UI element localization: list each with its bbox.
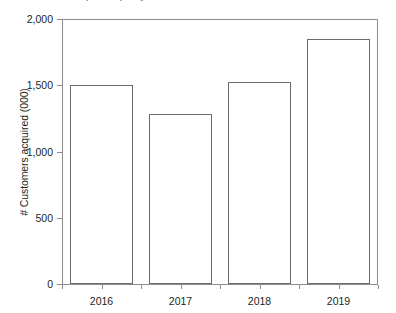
x-axis-label-2016: 2016 <box>90 295 113 307</box>
bar-2016[interactable] <box>70 85 133 284</box>
y-tick-label-500: 500 <box>35 212 53 224</box>
x-axis-label-2019: 2019 <box>327 295 350 307</box>
bar-2019[interactable] <box>307 39 370 284</box>
y-tick-label-2000: 2,000 <box>27 13 53 25</box>
axis-line-right <box>377 19 378 285</box>
y-tick-label-1000: 1,000 <box>27 146 53 158</box>
y-tick-500 <box>57 218 62 219</box>
x-tick-edge-1 <box>141 285 142 289</box>
x-tick-2017 <box>181 285 182 289</box>
plot-area: 05001,0001,5002,000 2016201720182019 <box>62 19 378 284</box>
bar-chart-figure: # Customers acquired (000) 05001,0001,50… <box>0 0 396 313</box>
y-tick-1000 <box>57 152 62 153</box>
y-tick-label-0: 0 <box>47 278 53 290</box>
y-tick-1500 <box>57 85 62 86</box>
y-tick-2000 <box>57 19 62 20</box>
x-tick-edge-4 <box>378 285 379 289</box>
x-tick-2016 <box>102 285 103 289</box>
x-axis-label-2018: 2018 <box>248 295 271 307</box>
axis-line-top <box>62 19 378 20</box>
x-tick-edge-2 <box>220 285 221 289</box>
x-tick-edge-0 <box>62 285 63 289</box>
x-axis-label-2017: 2017 <box>169 295 192 307</box>
bar-2017[interactable] <box>149 114 212 284</box>
axis-line-left <box>62 19 63 285</box>
x-tick-2019 <box>339 285 340 289</box>
bar-2018[interactable] <box>228 82 291 284</box>
y-tick-label-1500: 1,500 <box>27 79 53 91</box>
x-tick-2018 <box>260 285 261 289</box>
x-tick-edge-3 <box>299 285 300 289</box>
